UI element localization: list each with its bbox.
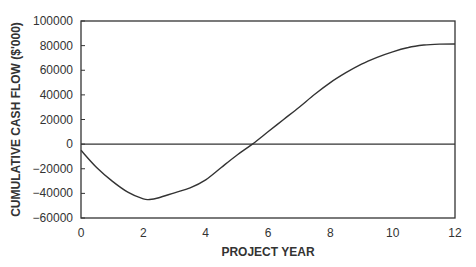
y-tick-label: 40000 <box>40 88 74 102</box>
y-axis-ticks: 100000800006000040000200000−20000−40000−… <box>33 14 85 225</box>
y-tick-label: 0 <box>66 137 73 151</box>
cash-flow-chart: 100000800006000040000200000−20000−40000−… <box>0 0 476 267</box>
x-axis-ticks: 024681012 <box>78 226 462 240</box>
y-tick-label: 20000 <box>40 113 74 127</box>
x-tick-label: 12 <box>448 226 462 240</box>
x-tick-label: 2 <box>140 226 147 240</box>
y-tick-label: 60000 <box>40 63 74 77</box>
y-tick-label: −60000 <box>33 211 74 225</box>
y-tick-label: −40000 <box>33 186 74 200</box>
x-tick-label: 8 <box>327 226 334 240</box>
cumulative-cash-flow-line <box>81 44 455 200</box>
x-tick-label: 4 <box>202 226 209 240</box>
y-axis-title: CUMULATIVE CASH FLOW ($'000) <box>9 22 23 217</box>
y-tick-label: −20000 <box>33 162 74 176</box>
x-tick-label: 10 <box>386 226 400 240</box>
y-tick-label: 100000 <box>33 14 73 28</box>
x-axis-title: PROJECT YEAR <box>221 245 314 259</box>
x-tick-label: 6 <box>265 226 272 240</box>
y-tick-label: 80000 <box>40 39 74 53</box>
x-tick-label: 0 <box>78 226 85 240</box>
